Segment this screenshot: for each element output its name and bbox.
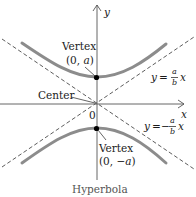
center-label: Center [38,89,75,101]
lower-branch-curve [22,128,166,163]
asymptote-positive-line [2,37,194,167]
asymptote-positive-equation: y = a b x [150,67,186,87]
svg-text:=: = [152,120,161,132]
origin-label: 0 [89,109,96,121]
svg-text:b: b [172,78,177,87]
upper-vertex-title: Vertex [61,40,96,52]
svg-text:y: y [143,120,151,132]
lower-vertex-coords: (0, −a) [99,155,136,167]
upper-vertex-coords: (0, a) [66,54,94,66]
x-axis-label: x [181,108,187,120]
center-leader [71,97,95,103]
svg-text:a: a [170,116,175,125]
svg-text:=: = [159,71,168,83]
svg-text:x: x [178,120,184,132]
svg-text:−: − [161,120,170,132]
svg-text:b: b [170,127,175,136]
figure-caption: Hyperbola [72,183,128,195]
svg-text:a: a [172,67,177,76]
lower-vertex-leader [98,130,106,140]
asymptotes [2,37,194,169]
hyperbola-diagram: y x 0 Center Vertex (0, a) Vertex (0, −a… [0,0,196,197]
svg-text:x: x [180,71,186,83]
lower-vertex-title: Vertex [98,142,133,154]
asymptote-negative-equation: y = − a b x [143,116,184,136]
y-axis-label: y [103,6,111,18]
svg-text:y: y [150,71,158,83]
